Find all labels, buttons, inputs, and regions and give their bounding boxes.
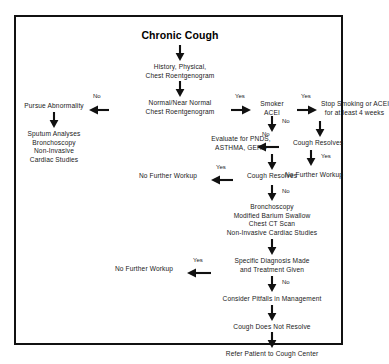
node-bronchoscopy-workup-line2: Modified Barium Swallow [202,212,342,221]
node-chronic-cough-label: Chronic Cough [141,29,218,41]
arrow-title-to-history [173,45,187,61]
node-no-further-workup-mid-label: No Further Workup [139,172,197,179]
node-sputum-studies: Sputum Analyses Bronchoscopy Non-Invasiv… [16,130,92,164]
node-normal-roentgenogram-line1: Normal/Near Normal [110,99,250,108]
node-pursue-abnormality: Pursue Abnormality [18,102,90,111]
arrow-not-resolve-to-refer [265,332,279,348]
node-sputum-studies-line1: Sputum Analyses [16,130,92,139]
node-consider-pitfalls-label: Consider Pitfalls in Management [222,295,321,302]
node-cough-resolves-mid-label: Cough Resolves [247,172,297,179]
edge-label-specific-diagnosis-no: No [282,279,290,286]
node-refer-cough-center-label: Refer Patient to Cough Center [226,350,319,357]
node-cough-does-not-resolve-label: Cough Does Not Resolve [233,323,310,330]
arrow-cough-resolves-mid-no [265,185,279,201]
node-sputum-studies-line2: Bronchoscopy [16,139,92,148]
arrow-specific-diagnosis-yes [187,266,211,280]
node-specific-diagnosis-line2: and Treatment Given [212,266,332,275]
arrow-cough-resolves-mid-yes [211,173,233,187]
node-specific-diagnosis-line1: Specific Diagnosis Made [212,257,332,266]
arrow-smoker-no [265,116,279,132]
arrow-history-to-roentgenogram [173,81,187,97]
node-normal-roentgenogram: Normal/Near Normal Chest Roentgenogram [110,99,250,116]
node-no-further-workup-lower: No Further Workup [104,265,184,274]
node-no-further-workup-lower-label: No Further Workup [115,265,173,272]
node-no-further-workup-mid: No Further Workup [128,172,208,181]
node-history-physical-line2: Chest Roentgenogram [110,72,250,81]
node-sputum-studies-line3: Non-Invasive [16,147,92,156]
node-normal-roentgenogram-line2: Chest Roentgenogram [110,108,250,117]
arrow-specific-diagnosis-no [265,276,279,292]
edge-label-roentgenogram-yes: Yes [235,93,245,100]
node-specific-diagnosis: Specific Diagnosis Made and Treatment Gi… [212,257,332,274]
node-evaluate-pnds-line2: ASTHMA, GERD [202,144,280,153]
arrow-workup-to-specific-diagnosis [265,239,279,255]
edge-label-specific-diagnosis-yes: Yes [193,257,203,264]
edge-label-roentgenogram-no: No [93,93,101,100]
node-history-physical: History, Physical, Chest Roentgenogram [110,63,250,80]
arrow-pitfalls-to-not-resolve [265,305,279,321]
node-pursue-abnormality-label: Pursue Abnormality [24,102,84,109]
arrow-roentgenogram-no [89,103,109,117]
arrow-evaluate-to-cough-resolves [265,154,279,170]
edge-label-smoker-yes: Yes [301,93,311,100]
node-stop-smoking: Stop Smoking or ACEI for at least 4 week… [256,100,388,117]
node-sputum-studies-line4: Cardiac Studies [16,156,92,165]
edge-label-cough-resolves-mid-no: No [282,188,290,195]
arrow-roentgenogram-yes [231,103,251,117]
flowchart-frame: Chronic Cough History, Physical, Chest R… [14,15,343,345]
node-bronchoscopy-workup-line4: Non-Invasive Cardiac Studies [202,229,342,238]
node-bronchoscopy-workup: Bronchoscopy Modified Barium Swallow Che… [202,203,342,237]
node-evaluate-pnds-line1: Evaluate for PNDS, [202,135,280,144]
node-stop-smoking-line2: for at least 4 weeks [321,109,388,118]
node-bronchoscopy-workup-line1: Bronchoscopy [202,203,342,212]
arrow-cough-resolves-right-yes [304,150,318,166]
arrow-pursue-to-sputum [47,112,61,128]
node-bronchoscopy-workup-line3: Chest CT Scan [202,220,342,229]
node-cough-resolves-mid: Cough Resolves [235,172,309,181]
edge-label-cough-resolves-right-yes: Yes [321,153,331,160]
node-history-physical-line1: History, Physical, [110,63,250,72]
node-cough-does-not-resolve: Cough Does Not Resolve [212,323,332,332]
edge-label-cough-resolves-mid-yes: Yes [216,164,226,171]
node-consider-pitfalls: Consider Pitfalls in Management [202,295,342,304]
node-stop-smoking-line1: Stop Smoking or ACEI [321,100,388,109]
node-chronic-cough: Chronic Cough [80,29,280,41]
node-refer-cough-center: Refer Patient to Cough Center [202,350,342,359]
edge-label-smoker-no: No [282,118,290,125]
node-evaluate-pnds: Evaluate for PNDS, ASTHMA, GERD [202,135,342,152]
